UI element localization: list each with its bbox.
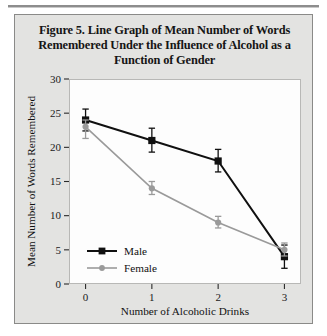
x-tick-label: 3 (282, 291, 288, 303)
data-point-marker (215, 157, 222, 164)
data-point-marker (281, 247, 287, 253)
y-tick-label: 10 (50, 209, 62, 221)
y-tick-label: 30 (50, 73, 62, 85)
series-male (82, 109, 288, 268)
y-axis-title: Mean Number of Words Remembered (25, 96, 37, 267)
legend-marker-male (99, 248, 106, 255)
legend-label-female: Female (124, 262, 157, 274)
y-tick-label: 15 (50, 175, 62, 187)
x-axis-group: 0123 (83, 284, 288, 303)
x-tick-label: 2 (215, 291, 221, 303)
figure-container: Figure 5. Line Graph of Mean Number of W… (14, 14, 313, 324)
page-top-rule (8, 5, 319, 7)
x-tick-label: 1 (149, 291, 155, 303)
line-chart: 051015202530 0123 MaleFemale Number of A… (15, 15, 314, 325)
series-line (86, 127, 285, 250)
legend-label-male: Male (124, 245, 147, 257)
data-point-marker (148, 137, 155, 144)
data-point-marker (82, 124, 88, 130)
y-tick-label: 25 (50, 107, 62, 119)
legend-marker-female (99, 265, 105, 271)
data-point-marker (215, 219, 221, 225)
y-tick-label: 5 (56, 244, 62, 256)
data-point-marker (149, 185, 155, 191)
series-female (82, 120, 287, 256)
y-tick-label: 20 (50, 141, 62, 153)
legend-group: MaleFemale (87, 245, 157, 274)
series-line (86, 120, 285, 257)
series-group (82, 109, 288, 268)
y-axis-group: 051015202530 (50, 73, 69, 290)
x-axis-title: Number of Alcoholic Drinks (121, 305, 249, 317)
x-tick-label: 0 (83, 291, 89, 303)
y-tick-label: 0 (56, 278, 62, 290)
